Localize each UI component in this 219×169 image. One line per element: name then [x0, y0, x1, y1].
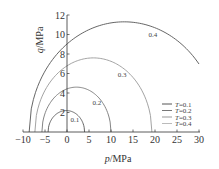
curve-label: 0.2	[93, 99, 102, 107]
x-tick-label: 25	[172, 134, 182, 145]
x-tick-label: 10	[106, 134, 116, 145]
y-tick-label: 4	[60, 88, 65, 99]
curve-label: 0.1	[71, 116, 80, 124]
y-tick-label: 10	[55, 29, 65, 40]
x-tick-label: 15	[128, 134, 138, 145]
curve-T-0_3	[35, 58, 152, 132]
curve-label: 0.3	[118, 71, 127, 79]
x-tick-label: 0	[65, 134, 70, 145]
curve-label: 0.4	[148, 31, 157, 39]
y-tick-label: 8	[60, 49, 65, 60]
y-tick-label: 2	[60, 107, 65, 118]
y-tick-label: 12	[55, 10, 65, 21]
curve-T-0_2	[42, 87, 111, 132]
legend: T=0.1T=0.2T=0.3T=0.4	[162, 101, 192, 129]
curve-labels: 0.10.20.30.4	[71, 31, 158, 124]
x-tick-label: 20	[150, 134, 160, 145]
y-tick-label: 6	[60, 68, 65, 79]
x-tick-label: −5	[40, 134, 51, 145]
x-axis-label: p/MPa	[104, 153, 132, 164]
x-tick-label: 30	[194, 134, 204, 145]
y-axis-label: q/MPa	[34, 26, 45, 53]
x-tick-label: −10	[15, 134, 31, 145]
x-tick-label: 5	[87, 134, 92, 145]
legend-label: T=0.4	[175, 120, 192, 128]
yield-surface-chart: −10−505101520253024681012 0.10.20.30.4 T…	[0, 0, 219, 169]
